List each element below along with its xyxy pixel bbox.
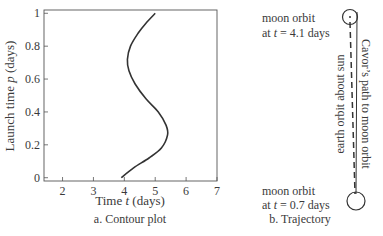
x-tick-label: 7 [214,184,220,198]
x-tick-label: 6 [183,184,189,198]
plot-frame [44,10,217,181]
y-axis-label: Launch time p (days) [2,41,17,152]
contour-plot-panel: 234567 00.20.40.60.81 Time t (days) a. C… [2,6,220,226]
contour-curve [121,13,168,177]
y-tick-label: 1 [34,6,40,20]
y-tick-label: 0.8 [25,39,40,53]
earth-orbit-label: earth orbit about sun [333,55,347,154]
cavor-path-label: Cavor’s path to moon orbit [359,39,373,169]
top-label-line1: moon orbit [262,11,316,25]
bottom-label-line2: at t = 0.7 days [262,198,330,212]
cavor-path-line [356,12,357,194]
y-tick-label: 0.2 [25,138,40,152]
moon-orbit-bottom-circle [347,192,365,210]
panel-b-caption: b. Trajectory [269,212,330,226]
x-axis-label: Time t (days) [95,193,165,208]
x-tick-label: 2 [60,184,66,198]
earth-orbit-dashed-line [350,22,355,194]
panel-a-caption: a. Contour plot [94,212,167,226]
y-tick-label: 0.6 [25,72,40,86]
top-label-line2: at t = 4.1 days [262,26,330,40]
bottom-label-line1: moon orbit [262,184,316,198]
moon-orbit-top-center [349,16,351,18]
y-tick-label: 0.4 [25,105,40,119]
y-ticks: 00.20.40.60.81 [25,6,48,184]
y-tick-label: 0 [34,171,40,185]
figure: 234567 00.20.40.60.81 Time t (days) a. C… [0,0,383,236]
trajectory-panel: moon orbit at t = 4.1 days moon orbit at… [262,10,373,227]
